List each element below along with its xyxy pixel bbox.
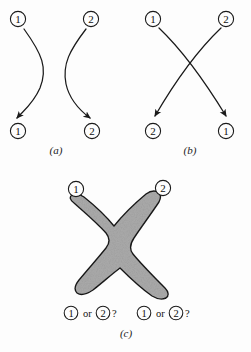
panel-c-caption: (c) — [120, 327, 133, 340]
panel-b-top-label-2-text: 2 — [223, 13, 229, 25]
figure-canvas: 1 2 1 2 (a) — [0, 0, 251, 352]
panel-c-question-left-first: 1 — [68, 308, 73, 319]
panel-c-label-1-text: 1 — [73, 183, 79, 195]
panel-b-bottom-label-2-text: 2 — [150, 125, 156, 137]
panel-c-merged-blob — [70, 191, 168, 299]
panel-c-question-left-second: 2 — [100, 308, 105, 319]
panel-a-bottom-label-1-text: 1 — [15, 125, 21, 137]
panel-b-top-label-2: 2 — [218, 11, 233, 26]
panel-c: 1 2 1 or 2 ? 1 or 2 — [64, 180, 190, 340]
panel-b-bottom-label-1: 1 — [218, 123, 233, 138]
panel-c-question-right-mark: ? — [185, 308, 190, 319]
panel-b-top-label-1: 1 — [145, 11, 160, 26]
panel-c-label-1: 1 — [68, 181, 83, 196]
panel-b-arrow-left-to-right — [159, 28, 226, 116]
panel-a-top-label-2: 2 — [83, 11, 98, 26]
panel-b-arrow-right-to-left — [155, 28, 221, 116]
panel-c-label-2: 2 — [155, 180, 170, 195]
panel-c-question-right: 1 or 2 ? — [137, 306, 190, 320]
panel-a-arrow-left — [17, 29, 43, 118]
panel-a-bottom-label-1: 1 — [10, 123, 25, 138]
panel-b: 1 2 2 1 (b) — [145, 11, 233, 157]
panel-a-caption: (a) — [50, 144, 63, 157]
panel-c-label-2-text: 2 — [160, 182, 166, 194]
panel-c-question-right-conjunction: or — [156, 308, 165, 319]
panel-c-question-left-mark: ? — [112, 308, 117, 319]
panel-a-bottom-label-2: 2 — [84, 123, 99, 138]
panel-c-question-left: 1 or 2 ? — [64, 306, 117, 320]
panel-b-top-label-1-text: 1 — [150, 13, 156, 25]
panel-b-bottom-label-1-text: 1 — [223, 125, 229, 137]
panel-a-top-label-1: 1 — [10, 11, 25, 26]
panel-c-question-right-first: 1 — [141, 308, 146, 319]
panel-c-question-left-conjunction: or — [83, 308, 92, 319]
panel-b-bottom-label-2: 2 — [145, 123, 160, 138]
panel-a-top-label-2-text: 2 — [88, 13, 94, 25]
panel-a: 1 2 1 2 (a) — [10, 11, 99, 157]
panel-a-bottom-label-2-text: 2 — [89, 125, 95, 137]
panel-b-caption: (b) — [184, 144, 197, 157]
panel-a-arrow-right — [65, 29, 90, 118]
panel-a-top-label-1-text: 1 — [15, 13, 21, 25]
figure-container: 1 2 1 2 (a) — [0, 0, 251, 352]
panel-c-question-right-second: 2 — [173, 308, 178, 319]
